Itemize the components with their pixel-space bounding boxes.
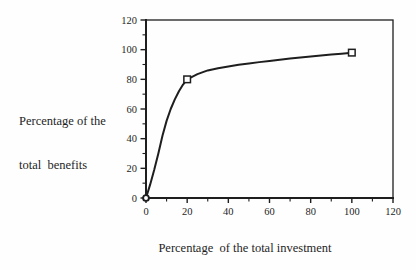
y-tick-label: 80 [127,74,138,85]
axes-lines [146,20,393,198]
plot-frame [146,20,393,198]
x-tick-label: 120 [385,206,401,217]
x-axis-title: Percentage of the total investment [140,241,350,256]
data-point-marker [349,49,356,56]
data-point-marker [184,76,191,83]
x-tick-label: 40 [223,206,234,217]
x-tick-label: 80 [305,206,316,217]
y-axis-title-line1: Percentage of the [19,114,106,129]
y-tick-label: 60 [127,104,138,115]
y-tick-label: 40 [127,133,138,144]
data-point-marker [143,195,149,201]
series-curve [146,53,352,198]
x-tick-label: 60 [264,206,275,217]
x-tick-label: 20 [182,206,193,217]
y-tick-label: 100 [121,44,137,55]
figure: 020406080100120020406080100120 Percentag… [0,0,416,270]
x-tick-label: 0 [143,206,148,217]
y-tick-label: 120 [121,15,137,26]
y-axis-title: Percentage of the total benefits [19,85,106,201]
y-tick-label: 0 [132,193,137,204]
y-tick-label: 20 [127,163,138,174]
y-axis-title-line2: total benefits [19,158,106,173]
x-tick-label: 100 [344,206,360,217]
